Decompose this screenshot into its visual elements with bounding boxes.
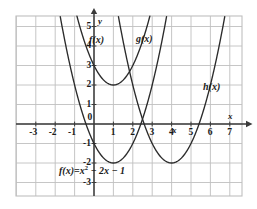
- equation-lhs: f(x): [59, 165, 74, 176]
- y-tick-label: 5: [87, 22, 92, 32]
- grid-lines: [16, 16, 242, 196]
- y-axis-label: y: [98, 17, 102, 26]
- x-axis-label: x: [228, 112, 233, 121]
- grid-border: [16, 16, 242, 196]
- equation-rhs-tail: − 2x − 1: [88, 165, 125, 176]
- x-tick-label: 5: [188, 128, 193, 138]
- y-tick-label: 2: [87, 80, 92, 90]
- x-tick-label: 2: [130, 128, 135, 138]
- y-tick-label: 1: [87, 100, 92, 110]
- x-tick-label: -1: [68, 128, 76, 138]
- x-tick-label: 0: [88, 113, 93, 123]
- y-tick-label: -3: [83, 178, 91, 188]
- x-tick-label: 6: [208, 128, 213, 138]
- graph-figure: y x x -3-2-101234567 -3-2-112345 f(x) g(…: [0, 0, 257, 209]
- x-tick-label: 1: [111, 128, 116, 138]
- x-tick-label: 4: [169, 128, 174, 138]
- coordinate-plane-svg: [0, 0, 257, 209]
- curve-label-g: g(x): [136, 34, 153, 44]
- y-tick-label: -1: [83, 139, 91, 149]
- y-axis-arrow: [91, 8, 97, 14]
- x-tick-label: 3: [150, 128, 155, 138]
- equation-label: f(x)=x2 − 2x − 1: [59, 165, 125, 176]
- x-tick-label: 7: [227, 128, 232, 138]
- x-axis-arrow: [246, 121, 253, 127]
- curve-label-f: f(x): [89, 35, 104, 45]
- y-tick-label: 3: [87, 61, 92, 71]
- curve-label-h: h(x): [203, 82, 220, 92]
- axis-lines: [16, 8, 253, 196]
- x-tick-label: -2: [49, 128, 57, 138]
- x-tick-label: -3: [29, 128, 37, 138]
